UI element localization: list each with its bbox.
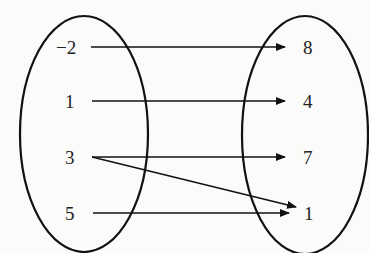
domain-value-neg2: −2	[56, 38, 76, 57]
arrow-3-to-1	[92, 157, 296, 207]
range-value-7: 7	[303, 148, 313, 167]
range-value-8: 8	[303, 38, 313, 57]
domain-value-3: 3	[65, 148, 75, 167]
domain-ellipse	[20, 16, 148, 252]
range-value-4: 4	[303, 92, 313, 111]
domain-value-1: 1	[65, 92, 75, 111]
range-value-1: 1	[304, 204, 314, 223]
domain-value-5: 5	[65, 204, 75, 223]
